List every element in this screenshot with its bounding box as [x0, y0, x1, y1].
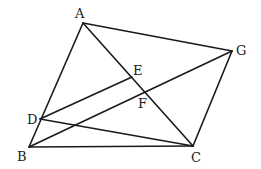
point-label-c: C [191, 150, 201, 165]
segment-ac [83, 23, 193, 146]
point-label-d: D [27, 112, 37, 127]
labels-group: AGBCDEF [17, 6, 246, 165]
segments-group [29, 23, 232, 147]
point-label-b: B [17, 149, 27, 164]
geometry-diagram: AGBCDEF [0, 0, 261, 169]
segment-bg [29, 51, 232, 147]
segment-ab [29, 23, 83, 147]
point-label-f: F [138, 96, 147, 111]
point-label-a: A [74, 6, 85, 21]
segment-dc [40, 119, 193, 146]
segment-bc [29, 146, 193, 147]
point-label-g: G [236, 43, 246, 58]
segment-de [40, 77, 132, 119]
point-label-e: E [133, 63, 143, 78]
segment-gc [193, 51, 232, 146]
